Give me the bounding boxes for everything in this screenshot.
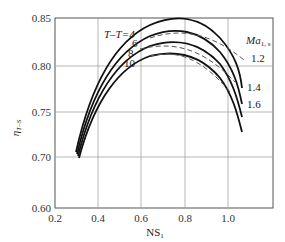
y-tick: 0.85 [32,12,52,24]
x-tick: 0.2 [48,212,62,224]
solid-curves [76,18,242,158]
x-tick: 0.4 [91,212,105,224]
y-tick: 0.70 [32,151,52,163]
y-axis-label: ηT–S [9,119,23,136]
tt-label: T–T=4 [104,28,135,40]
curve-ma-1-6 [150,54,230,92]
x-tick: 0.8 [178,212,192,224]
tt-10-label: 10 [124,57,136,69]
y-tick: 0.75 [32,106,52,118]
ma-title: Ma1, s [245,34,271,48]
x-axis-ticks: 0.2 0.4 0.6 0.8 1.0 [48,212,235,224]
x-axis-label: NS1 [146,226,164,240]
ma-1-4-label: 1.4 [247,81,261,93]
y-axis-ticks: 0.85 0.80 0.75 0.70 0.60 [32,12,52,214]
ma-1-2-label: 1.2 [251,52,265,64]
y-tick: 0.80 [32,60,52,72]
x-tick: 1.0 [221,212,235,224]
curve-tt-10 [79,54,242,158]
x-tick: 0.6 [134,212,148,224]
ma-1-6-label: 1.6 [247,98,261,110]
chart: 0.85 0.80 0.75 0.70 0.60 0.2 0.4 0.6 0.8… [0,0,285,242]
